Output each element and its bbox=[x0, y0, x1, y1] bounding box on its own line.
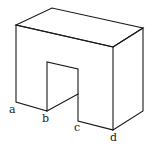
label-b: b bbox=[42, 112, 49, 125]
front-face bbox=[16, 25, 113, 130]
label-a: a bbox=[9, 103, 16, 116]
right-face bbox=[113, 28, 143, 130]
top-face bbox=[16, 8, 143, 47]
block-diagram: a b c d bbox=[0, 0, 153, 147]
notch-floor-edge bbox=[47, 94, 78, 111]
label-c: c bbox=[74, 121, 80, 134]
label-d: d bbox=[110, 131, 117, 144]
